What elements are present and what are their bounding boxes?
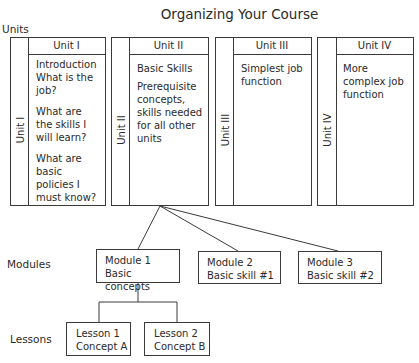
module-box-1: Module 1 Basic concepts: [96, 249, 180, 283]
unit-paragraph: Prerequisite concepts, skills needed for…: [137, 80, 204, 145]
lesson-name: Lesson 2: [154, 327, 209, 340]
unit-body: More complex job function: [343, 62, 409, 109]
unit-paragraph: Basic Skills: [137, 62, 204, 75]
unit-card-3: Unit III Unit III Simplest job function: [215, 37, 312, 206]
module-name: Module 2: [207, 256, 280, 269]
unit-card-2: Unit II Unit II Basic Skills Prerequisit…: [111, 37, 209, 206]
unit-paragraph: Introduction What is the job?: [36, 58, 101, 97]
unit-side-label: Unit III: [219, 113, 230, 145]
connector-unit2-module2: [160, 206, 238, 251]
lesson-desc: Concept A: [76, 340, 130, 353]
unit-paragraph: Simplest job function: [241, 62, 307, 88]
unit-side-label: Unit IV: [321, 113, 332, 146]
unit-paragraph: What are the skills I will learn?: [36, 105, 101, 144]
unit-paragraph: What are basic policies I must know?: [36, 152, 101, 204]
unit-body: Basic Skills Prerequisite concepts, skil…: [137, 62, 204, 153]
lesson-box-2: Lesson 2 Concept B: [144, 322, 210, 356]
connector-unit2-module3: [160, 206, 338, 251]
connector-unit2-module1: [138, 206, 160, 249]
module-name: Module 1: [105, 254, 179, 267]
unit-header: Unit IV: [336, 38, 413, 55]
unit-body: Simplest job function: [241, 62, 307, 96]
unit-side-label: Unit II: [115, 115, 126, 144]
unit-card-4: Unit IV Unit IV More complex job functio…: [317, 37, 414, 206]
unit-card-1: Unit I Unit I Introduction What is the j…: [10, 37, 106, 206]
unit-paragraph: More complex job function: [343, 62, 409, 101]
module-desc: Basic skill #2: [307, 269, 381, 282]
module-box-2: Module 2 Basic skill #1: [198, 251, 281, 284]
unit-body: Introduction What is the job? What are t…: [36, 58, 101, 212]
module-box-3: Module 3 Basic skill #2: [298, 251, 382, 284]
lesson-name: Lesson 1: [76, 327, 130, 340]
unit-header: Unit I: [28, 38, 105, 55]
lesson-box-1: Lesson 1 Concept A: [66, 322, 131, 356]
module-desc: Basic skill #1: [207, 269, 280, 282]
unit-header: Unit III: [233, 38, 311, 55]
module-desc: Basic concepts: [105, 267, 179, 293]
module-name: Module 3: [307, 256, 381, 269]
unit-header: Unit II: [129, 38, 208, 55]
lesson-desc: Concept B: [154, 340, 209, 353]
unit-side-label: Unit I: [14, 116, 25, 142]
